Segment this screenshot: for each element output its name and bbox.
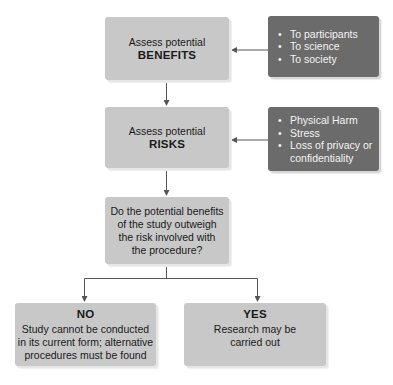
yes-line: carried out [230, 336, 280, 349]
benefits-details-box: To participants To science To society [268, 16, 379, 77]
no-title: NO [77, 308, 95, 321]
question-line: Do the potential benefits [110, 205, 223, 218]
assess-risks-box: Assess potential RISKS [105, 107, 229, 168]
no-outcome-box: NO Study cannot be conducted in its curr… [15, 303, 156, 366]
yes-outcome-box: YES Research may be carried out [184, 303, 326, 366]
risk-item: Loss of privacy or [278, 139, 372, 152]
question-line: the risk involved with [119, 231, 216, 244]
risks-details-box: Physical Harm Stress Loss of privacy or … [268, 107, 379, 171]
risk-item: Stress [278, 127, 372, 140]
risk-item: Physical Harm [278, 114, 372, 127]
no-line: Study cannot be conducted [22, 323, 149, 336]
benefits-list: To participants To science To society [278, 28, 358, 66]
risks-list: Physical Harm Stress Loss of privacy or … [278, 114, 372, 164]
question-line: of the study outweigh [117, 218, 216, 231]
benefit-item: To participants [278, 28, 358, 41]
assess-benefits-box: Assess potential BENEFITS [105, 17, 229, 80]
yes-line: Research may be [214, 323, 296, 336]
benefits-line1: Assess potential [129, 36, 205, 49]
risks-line1: Assess potential [129, 125, 205, 138]
risk-item-continued: confidentiality [278, 152, 372, 165]
benefit-item: To society [278, 53, 358, 66]
benefit-item: To science [278, 40, 358, 53]
yes-title: YES [243, 308, 267, 321]
question-box: Do the potential benefits of the study o… [105, 197, 229, 264]
question-line: the procedure? [132, 244, 203, 257]
risks-title: RISKS [149, 138, 185, 151]
benefits-title: BENEFITS [138, 49, 196, 62]
no-line: in its current form; alternative [18, 336, 153, 349]
no-line: procedures must be found [25, 349, 147, 362]
